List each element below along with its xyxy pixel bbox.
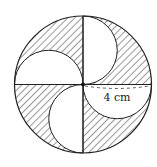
center-point — [81, 83, 85, 87]
pinwheel-circle-diagram: 4 cm — [0, 0, 157, 167]
dimension-label: 4 cm — [103, 91, 131, 104]
